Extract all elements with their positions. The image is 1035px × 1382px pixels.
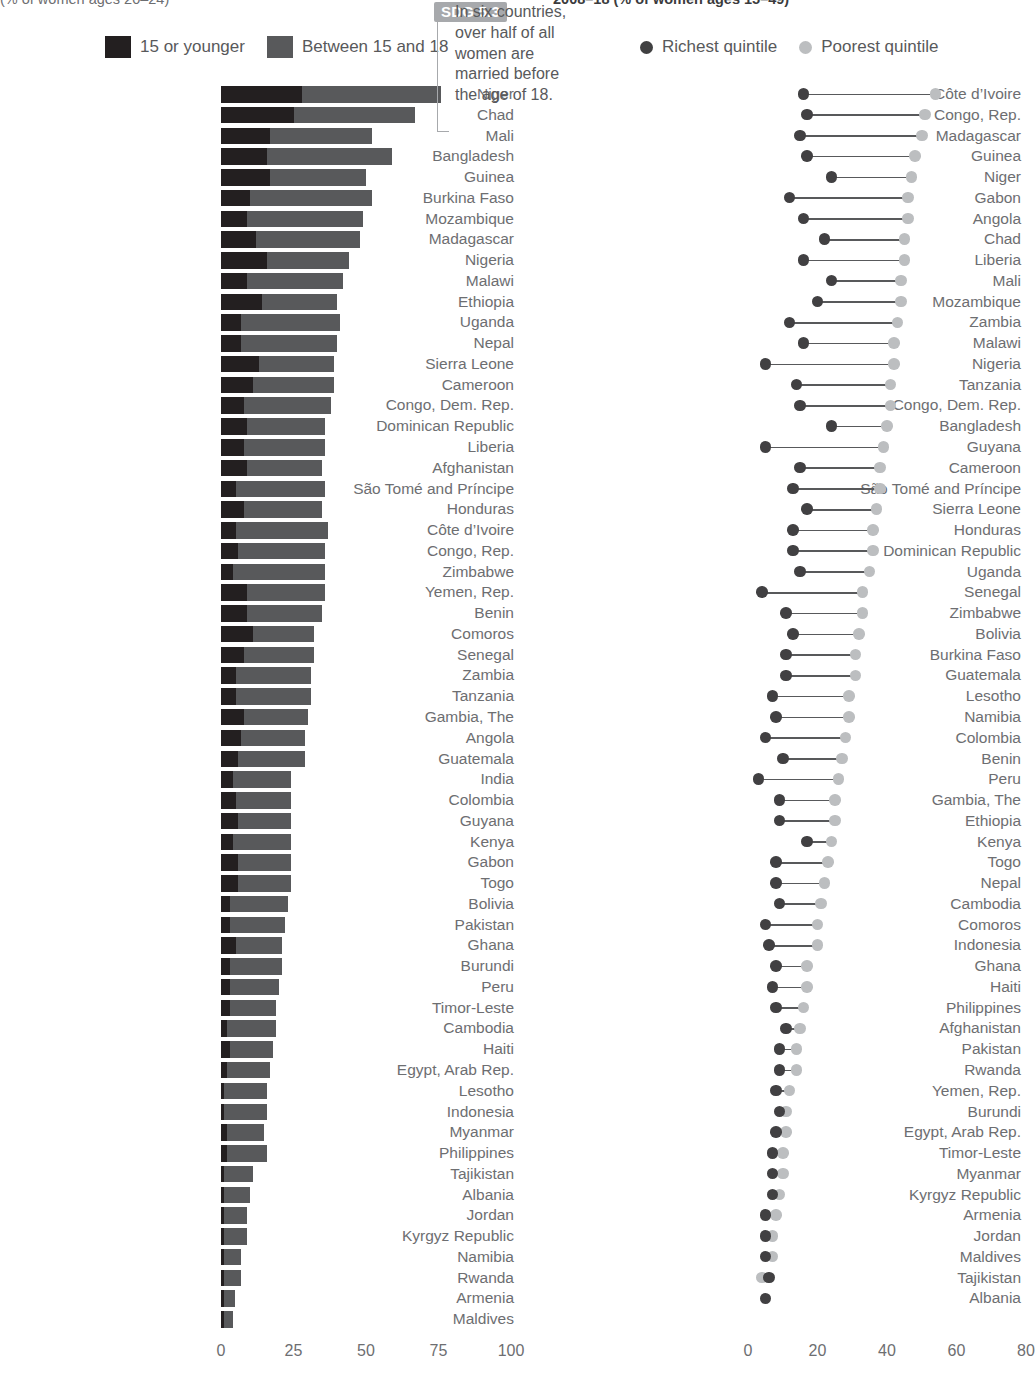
bar-chart-row: Peru <box>0 977 520 998</box>
dot-poorest-quintile <box>829 815 841 827</box>
dot-poorest-quintile <box>867 545 879 557</box>
dumbbell-track <box>748 126 1026 147</box>
bar-segment-between-15-and-18 <box>227 1145 268 1162</box>
bar-track <box>221 107 415 124</box>
bar-country-label: Colombia <box>306 790 520 811</box>
dumbbell-chart-row: Philippines <box>524 998 1029 1019</box>
dumbbell-connector-line <box>797 384 891 386</box>
bar-chart-row: Liberia <box>0 437 520 458</box>
bar-track <box>221 128 372 145</box>
bar-segment-15-or-younger <box>221 709 244 726</box>
bar-country-label: Benin <box>306 603 520 624</box>
dot-poorest-quintile <box>794 1023 806 1035</box>
bar-country-label: Honduras <box>306 499 520 520</box>
bar-country-label: Philippines <box>306 1143 520 1164</box>
dumbbell-connector-line <box>793 550 873 552</box>
dot-richest-quintile <box>801 150 813 162</box>
dot-richest-quintile <box>787 628 799 640</box>
bar-country-label: Kenya <box>306 832 520 853</box>
bar-track <box>221 522 328 539</box>
bar-country-label: Jordan <box>306 1205 520 1226</box>
left-chart-title: (% of women ages 20–24) <box>0 0 169 7</box>
dot-poorest-quintile <box>801 960 813 972</box>
dumbbell-chart-row: Madagascar <box>524 126 1029 147</box>
dot-richest-quintile <box>826 275 838 287</box>
dumbbell-chart-row: Mozambique <box>524 292 1029 313</box>
bar-segment-between-15-and-18 <box>247 584 325 601</box>
dumbbell-connector-line <box>804 260 905 262</box>
bar-segment-between-15-and-18 <box>233 564 326 581</box>
bar-chart-row: Nepal <box>0 333 520 354</box>
bar-segment-between-15-and-18 <box>247 460 322 477</box>
dot-richest-quintile <box>767 690 779 702</box>
dot-poorest-quintile <box>909 150 921 162</box>
dumbbell-track <box>748 873 1026 894</box>
dumbbell-connector-line <box>786 675 856 677</box>
bar-segment-between-15-and-18 <box>224 1166 253 1183</box>
dumbbell-connector-line <box>765 447 883 449</box>
dumbbell-chart-row: Afghanistan <box>524 1018 1029 1039</box>
dumbbell-track <box>748 1102 1026 1123</box>
dot-richest-quintile <box>760 1293 772 1305</box>
dumbbell-track <box>748 1122 1026 1143</box>
dumbbell-chart-row: Colombia <box>524 728 1029 749</box>
bar-country-label: Yemen, Rep. <box>306 582 520 603</box>
x-axis-tick-dumbbell: 0 <box>744 1342 753 1360</box>
bar-country-label: São Tomé and Príncipe <box>306 479 520 500</box>
bar-segment-between-15-and-18 <box>259 356 334 373</box>
bar-country-label: Dominican Republic <box>306 416 520 437</box>
x-axis-bar-chart: 0255075100 <box>221 1342 511 1364</box>
dumbbell-chart-row: Rwanda <box>524 1060 1029 1081</box>
dumbbell-chart-row: Liberia <box>524 250 1029 271</box>
dot-richest-quintile <box>787 483 799 495</box>
dumbbell-connector-line <box>772 696 848 698</box>
bar-chart-row: Sierra Leone <box>0 354 520 375</box>
bar-segment-15-or-younger <box>221 169 270 186</box>
legend-dot-richest-quintile <box>640 41 653 54</box>
dumbbell-track <box>748 416 1026 437</box>
dot-poorest-quintile <box>853 628 865 640</box>
legend-dot-poorest-quintile <box>799 41 812 54</box>
dot-poorest-quintile <box>930 88 942 100</box>
dumbbell-chart: Côte d’IvoireCongo, Rep.MadagascarGuinea… <box>524 84 1029 1309</box>
bar-track <box>221 667 311 684</box>
bar-track <box>221 190 372 207</box>
bar-country-label: Kyrgyz Republic <box>306 1226 520 1247</box>
bar-chart-row: Comoros <box>0 624 520 645</box>
dot-richest-quintile <box>770 1002 782 1014</box>
bar-chart-row: Armenia <box>0 1288 520 1309</box>
dot-poorest-quintile <box>826 836 838 848</box>
bar-segment-between-15-and-18 <box>267 148 392 165</box>
dumbbell-track <box>748 624 1026 645</box>
bar-segment-15-or-younger <box>221 854 238 871</box>
legend-swatch-15-or-younger <box>105 36 131 58</box>
dumbbell-track <box>748 84 1026 105</box>
bar-segment-between-15-and-18 <box>247 418 325 435</box>
bar-segment-15-or-younger <box>221 730 241 747</box>
dumbbell-track <box>748 458 1026 479</box>
dot-richest-quintile <box>774 815 786 827</box>
bar-country-label: Lesotho <box>306 1081 520 1102</box>
dot-richest-quintile <box>794 566 806 578</box>
bar-track <box>221 896 288 913</box>
dumbbell-chart-row: Egypt, Arab Rep. <box>524 1122 1029 1143</box>
bar-segment-15-or-younger <box>221 460 247 477</box>
bar-chart-row: Nigeria <box>0 250 520 271</box>
dumbbell-chart-row: Lesotho <box>524 686 1029 707</box>
bar-chart-row: Lesotho <box>0 1081 520 1102</box>
bar-chart-row: Burkina Faso <box>0 188 520 209</box>
bar-chart-row: Togo <box>0 873 520 894</box>
dumbbell-chart-row: Niger <box>524 167 1029 188</box>
bar-track <box>221 1311 233 1328</box>
bar-country-label: Bolivia <box>306 894 520 915</box>
bar-chart-row: Jordan <box>0 1205 520 1226</box>
bar-segment-between-15-and-18 <box>224 1228 247 1245</box>
dumbbell-track <box>748 520 1026 541</box>
dot-poorest-quintile <box>878 441 890 453</box>
bar-track <box>221 854 291 871</box>
bar-track <box>221 1041 273 1058</box>
dumbbell-chart-row: Bangladesh <box>524 416 1029 437</box>
bar-country-label: Liberia <box>306 437 520 458</box>
bar-segment-between-15-and-18 <box>236 792 291 809</box>
bar-country-label: Timor-Leste <box>306 998 520 1019</box>
